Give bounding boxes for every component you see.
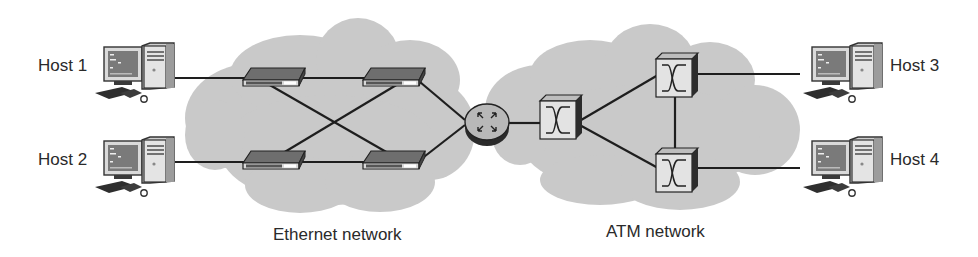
ethernet-network-label: Ethernet network xyxy=(273,225,402,245)
atm-switch-icon xyxy=(540,95,582,139)
atm-network-label: ATM network xyxy=(606,222,705,242)
ethernet-switch-icon xyxy=(243,68,305,86)
ethernet-switch-icon xyxy=(363,68,425,86)
network-diagram xyxy=(0,0,978,257)
router-icon xyxy=(465,104,509,146)
host1-computer-icon xyxy=(95,43,174,102)
atm-switch-icon xyxy=(656,148,698,192)
host2-label: Host 2 xyxy=(38,150,87,170)
host4-label: Host 4 xyxy=(890,150,939,170)
host4-computer-icon xyxy=(803,137,882,196)
atm-switch-icon xyxy=(656,53,698,97)
ethernet-cloud xyxy=(185,18,475,213)
host1-label: Host 1 xyxy=(38,56,87,76)
host3-computer-icon xyxy=(803,43,882,102)
host2-computer-icon xyxy=(95,137,174,196)
ethernet-switch-icon xyxy=(363,151,425,169)
host3-label: Host 3 xyxy=(890,56,939,76)
ethernet-switch-icon xyxy=(243,151,305,169)
atm-cloud xyxy=(485,24,800,210)
